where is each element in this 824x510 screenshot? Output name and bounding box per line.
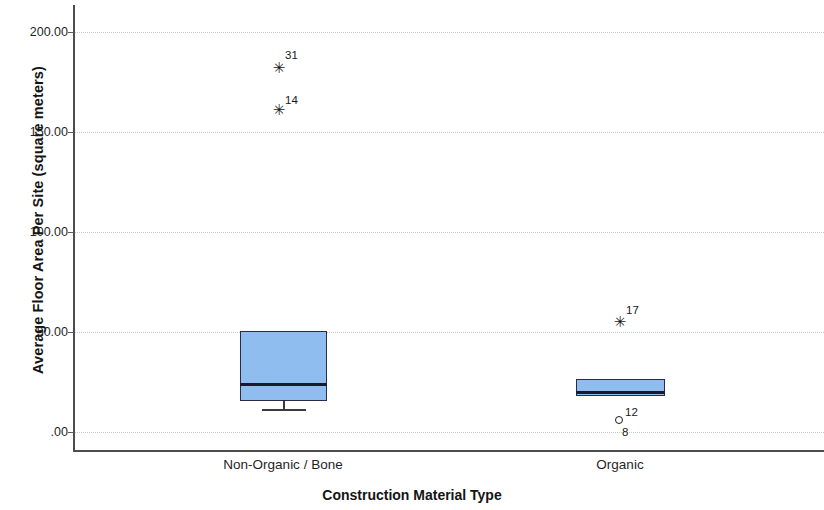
y-tick-label-100: 100.00 [6, 225, 68, 239]
median-line-nonorganic [240, 383, 327, 386]
y-tick-mark-0 [68, 432, 74, 433]
y-tick-mark-150 [68, 132, 74, 133]
box-nonorganic [240, 331, 327, 401]
outlier-label-31: 31 [285, 49, 298, 61]
y-tick-label-0: .00 [6, 425, 68, 439]
outlier-marker-star-14: ✳ [273, 103, 286, 118]
y-tick-label-200: 200.00 [6, 25, 68, 39]
y-tick-label-50: 50.00 [6, 325, 68, 339]
outlier-marker-circle-12-8 [615, 416, 623, 424]
y-tick-mark-50 [68, 332, 74, 333]
outlier-label-12: 12 [625, 406, 638, 418]
y-axis-line [73, 5, 75, 451]
x-axis-line [73, 450, 824, 452]
y-tick-label-150: 150.00 [6, 125, 68, 139]
gridline-0 [73, 432, 824, 433]
outlier-label-17: 17 [626, 304, 639, 316]
gridline-200 [73, 32, 824, 33]
outlier-label-8: 8 [622, 426, 628, 438]
outlier-marker-star-31: ✳ [273, 61, 286, 76]
box-plot-chart: Average Floor Area Per Site (square mete… [0, 0, 824, 510]
y-tick-mark-100 [68, 232, 74, 233]
gridline-150 [73, 132, 824, 133]
gridline-100 [73, 232, 824, 233]
outlier-label-14: 14 [285, 94, 298, 106]
median-line-organic [576, 391, 665, 394]
outlier-marker-star-17: ✳ [614, 315, 627, 330]
x-category-label-non-organic-bone: Non-Organic / Bone [223, 457, 342, 472]
whisker-cap-lower-nonorganic [262, 409, 306, 411]
y-tick-mark-200 [68, 32, 74, 33]
x-axis-title: Construction Material Type [0, 487, 824, 503]
x-category-label-organic: Organic [596, 457, 643, 472]
gridline-50 [73, 332, 824, 333]
y-axis-title: Average Floor Area Per Site (square mete… [30, 10, 46, 430]
